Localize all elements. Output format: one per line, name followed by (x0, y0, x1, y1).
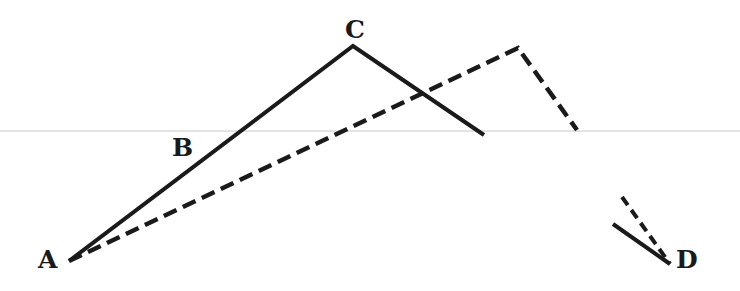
solid-segment-to-d (613, 224, 670, 264)
solid-path-a-c (69, 46, 484, 261)
label-a: A (37, 245, 58, 274)
label-c: C (345, 15, 365, 44)
dashed-path-a-peak (69, 48, 577, 261)
label-b: B (172, 133, 193, 162)
geometry-diagram: A B C D (0, 0, 740, 291)
dashed-segment-to-d (622, 197, 670, 264)
label-d: D (676, 245, 698, 274)
